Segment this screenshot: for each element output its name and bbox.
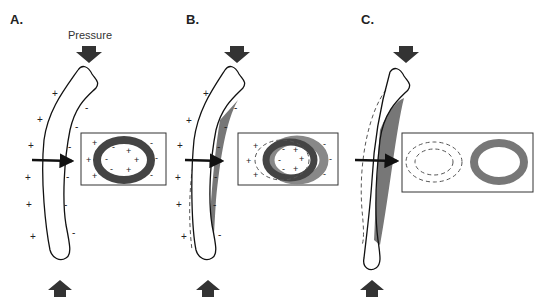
force-arrow-icon [185,160,222,161]
svg-text:+: + [28,140,34,151]
svg-text:-: - [214,171,217,182]
svg-text:-: - [278,155,281,165]
svg-text:-: - [150,138,153,148]
svg-text:-: - [105,154,108,164]
svg-text:-: - [282,144,285,154]
svg-text:-: - [68,141,71,152]
svg-text:-: - [85,102,88,113]
svg-text:-: - [323,169,326,179]
svg-text:-: - [329,154,332,164]
svg-text:+: + [246,156,251,166]
svg-text:+: + [176,199,182,210]
svg-text:-: - [217,141,220,152]
svg-text:+: + [186,115,192,126]
svg-text:+: + [86,155,91,165]
panel-c [355,46,533,297]
svg-text:+: + [203,88,209,99]
svg-text:-: - [234,102,237,113]
svg-text:+: + [37,114,43,125]
svg-text:+: + [293,164,298,174]
svg-text:+: + [175,172,181,183]
pressure-arrow-up-icon [48,280,72,297]
svg-text:+: + [293,145,298,155]
svg-text:+: + [92,138,97,148]
svg-text:-: - [323,139,326,149]
svg-text:+: + [92,171,97,181]
svg-text:-: - [110,164,113,174]
force-arrow-icon [32,160,72,161]
svg-text:-: - [64,199,67,210]
force-arrow-icon [355,160,397,161]
panel-b: +++ +++ --- --- +++ --- +++ --- [175,46,338,297]
svg-text:+: + [30,231,36,242]
panel-a: +++ +++ --- --- +++ --- +++ --- [25,46,166,297]
svg-text:+: + [52,88,58,99]
bone-remodeling-diagram: +++ +++ --- --- +++ --- +++ --- +++ +++ … [0,0,544,304]
svg-text:-: - [282,164,285,174]
svg-text:+: + [299,154,304,164]
svg-text:-: - [66,171,69,182]
svg-text:+: + [126,146,131,156]
svg-text:-: - [150,170,153,180]
svg-text:+: + [253,141,258,151]
svg-text:+: + [134,155,139,165]
svg-text:+: + [177,140,183,151]
svg-text:-: - [72,227,75,238]
cross-section-box-c [402,133,533,192]
svg-text:-: - [224,121,227,132]
svg-text:-: - [155,153,158,163]
svg-text:-: - [112,142,115,152]
pressure-arrow-down-icon [393,46,419,63]
svg-text:-: - [218,229,221,240]
svg-text:+: + [25,172,31,183]
pressure-arrow-up-icon [196,280,220,297]
svg-text:-: - [213,199,216,210]
pressure-arrow-down-icon [224,46,250,63]
pressure-arrow-up-icon [360,280,384,297]
pressure-arrow-down-icon [76,46,102,63]
svg-text:+: + [26,199,32,210]
svg-text:+: + [181,231,187,242]
svg-text:+: + [126,165,131,175]
svg-text:+: + [253,170,258,180]
svg-text:-: - [75,121,78,132]
